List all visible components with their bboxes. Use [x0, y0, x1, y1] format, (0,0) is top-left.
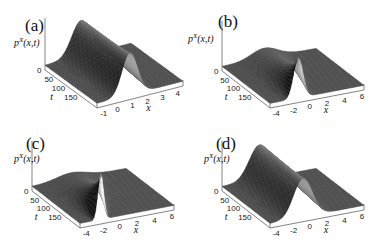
panel-label: (d): [216, 134, 236, 154]
x-tick-label: -2: [290, 106, 297, 115]
panel-c: (c)pX(x,t)050100150t-4-20246x: [0, 120, 190, 240]
x-tick-label: 4: [175, 89, 179, 98]
t-tick-label: 150: [48, 213, 61, 222]
x-tick-label: 6: [360, 212, 364, 221]
t-axis-label: t: [225, 211, 228, 222]
t-tick-label: 50: [44, 75, 53, 84]
x-tick-label: 0: [307, 102, 311, 111]
x-tick-label: 3: [160, 93, 164, 102]
x-tick-label: 4: [342, 216, 346, 225]
panel-b: (b)pX(x,t)050100150t-4-20246x: [190, 0, 380, 120]
x-tick-label: 0: [117, 222, 121, 231]
x-tick-label: -2: [100, 226, 107, 235]
t-tick-label: 100: [227, 84, 240, 93]
x-tick-label: -1: [100, 109, 107, 118]
x-axis-label: x: [134, 224, 138, 235]
x-tick-label: -2: [290, 226, 297, 235]
t-tick-label: 0: [24, 187, 28, 196]
x-tick-label: -4: [273, 109, 280, 118]
x-tick-label: 0: [115, 105, 119, 114]
t-tick-label: 0: [37, 66, 41, 75]
x-axis-label: x: [146, 102, 150, 113]
x-tick-label: 6: [170, 212, 174, 221]
t-tick-label: 100: [227, 204, 240, 213]
t-tick-label: 50: [220, 196, 229, 205]
t-tick-label: 100: [37, 204, 50, 213]
t-tick-label: 50: [30, 196, 39, 205]
panel-a: (a)pX(x,t)050100150t-101234x: [0, 0, 190, 120]
panel-label: (b): [218, 12, 238, 32]
t-axis-label: t: [35, 211, 38, 222]
t-tick-label: 50: [220, 76, 229, 85]
t-tick-label: 100: [52, 84, 65, 93]
t-tick-label: 0: [214, 67, 218, 76]
z-axis-label: pX(x,t): [14, 152, 40, 164]
t-tick-label: 0: [214, 187, 218, 196]
panel-label: (c): [26, 134, 45, 154]
panel-label: (a): [25, 16, 44, 36]
x-tick-label: 1: [130, 101, 134, 110]
x-tick-label: -4: [273, 229, 280, 238]
t-axis-label: t: [50, 91, 53, 102]
z-axis-label: pX(x,t): [14, 36, 40, 48]
z-axis-label: pX(x,t): [188, 32, 214, 44]
t-tick-label: 150: [238, 213, 251, 222]
panel-d: (d)pX(x,t)050100150t-4-20246x: [190, 120, 380, 240]
t-axis-label: t: [225, 91, 228, 102]
t-tick-label: 150: [64, 93, 77, 102]
x-tick-label: 0: [307, 222, 311, 231]
x-axis-label: x: [324, 104, 328, 115]
x-tick-label: 6: [360, 92, 364, 101]
x-tick-label: -4: [83, 229, 90, 238]
z-axis-label: pX(x,t): [204, 152, 230, 164]
t-tick-label: 150: [238, 93, 251, 102]
x-tick-label: 4: [342, 96, 346, 105]
x-axis-label: x: [324, 224, 328, 235]
x-tick-label: 4: [152, 216, 156, 225]
